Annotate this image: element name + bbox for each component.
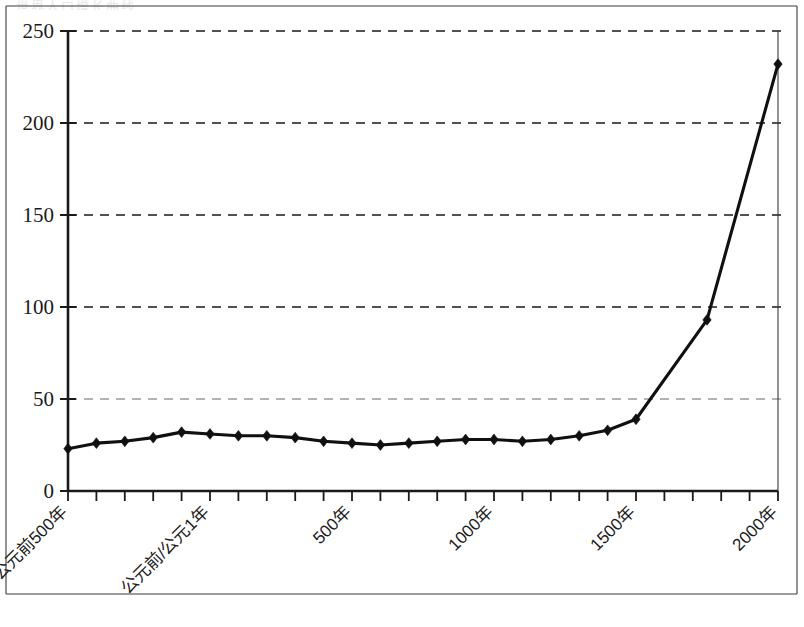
data-point-marker [206, 429, 214, 440]
y-axis-tick-labels: 050100150200250 [23, 19, 55, 503]
data-point-marker [433, 436, 441, 447]
data-point-marker [177, 427, 185, 438]
data-point-marker [547, 434, 555, 445]
x-axis-tick-labels: 公元前500年公元前/公元1年500年1000年1500年2000年 [0, 502, 781, 598]
data-point-marker [149, 432, 157, 443]
data-point-marker [92, 438, 100, 449]
data-point-marker [319, 436, 327, 447]
x-tick-label: 公元前500年 [0, 502, 71, 584]
data-point-marker [263, 430, 271, 441]
x-tick-label: 2000年 [729, 502, 781, 554]
y-tick-label: 200 [23, 111, 55, 135]
data-point-marker [490, 434, 498, 445]
data-point-marker [64, 443, 72, 454]
data-series-world-population [64, 59, 782, 454]
series-polyline [68, 64, 778, 449]
y-tick-label: 250 [23, 19, 55, 43]
data-point-marker [461, 434, 469, 445]
data-point-marker [291, 432, 299, 443]
x-tick-label: 公元前/公元1年 [117, 502, 213, 598]
data-point-marker [603, 425, 611, 436]
data-point-marker [774, 59, 782, 70]
y-axis [60, 31, 76, 491]
chart-frame [6, 6, 797, 594]
data-point-marker [405, 438, 413, 449]
x-tick-label: 1500年 [587, 502, 639, 554]
gridlines [68, 31, 784, 399]
data-point-marker [234, 430, 242, 441]
data-point-marker [575, 430, 583, 441]
data-point-marker [376, 440, 384, 451]
x-axis [68, 31, 778, 501]
x-tick-label: 1000年 [445, 502, 497, 554]
chart-page: 世界人口增长曲线 050100150200250 公元前500年公元前/公元1年… [0, 0, 804, 627]
population-line-chart: 050100150200250 公元前500年公元前/公元1年500年1000年… [0, 0, 804, 627]
data-point-marker [518, 436, 526, 447]
y-tick-label: 50 [33, 387, 54, 411]
x-tick-label: 500年 [309, 502, 355, 548]
y-tick-label: 150 [23, 203, 55, 227]
y-tick-label: 0 [44, 479, 55, 503]
y-tick-label: 100 [23, 295, 55, 319]
data-point-marker [348, 438, 356, 449]
data-point-marker [121, 436, 129, 447]
